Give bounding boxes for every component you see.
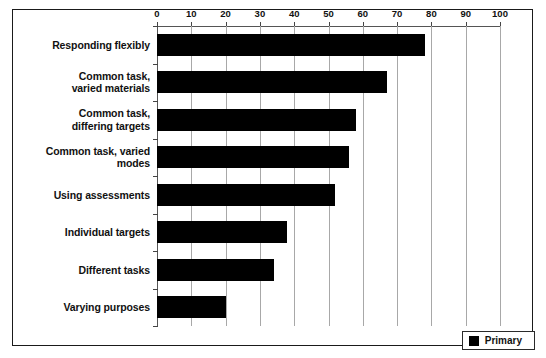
category-label: Using assessments	[18, 176, 152, 214]
bar	[157, 146, 349, 168]
legend-swatch-primary	[469, 336, 479, 346]
value-tick-label: 70	[392, 8, 403, 19]
gridline	[500, 26, 501, 326]
value-tick-label: 60	[358, 8, 369, 19]
category-label: Common task, varied materials	[18, 64, 152, 102]
bar	[157, 184, 335, 206]
bar	[157, 34, 425, 56]
bar	[157, 109, 356, 131]
category-axis-labels: Responding flexiblyCommon task, varied m…	[18, 26, 152, 326]
bar-row	[157, 101, 500, 139]
chart-figure: Responding flexiblyCommon task, varied m…	[0, 0, 546, 358]
bar-row	[157, 64, 500, 102]
category-tick	[153, 326, 158, 327]
value-tick-label: 50	[323, 8, 334, 19]
legend-label-primary: Primary	[485, 335, 522, 346]
bar-series-primary	[157, 26, 500, 326]
bar-row	[157, 289, 500, 327]
category-label: Different tasks	[18, 251, 152, 289]
value-tick-label: 0	[154, 8, 159, 19]
bar-row	[157, 26, 500, 64]
value-tick-label: 20	[220, 8, 231, 19]
bar-row	[157, 176, 500, 214]
value-tick	[500, 22, 501, 26]
value-tick-label: 100	[492, 8, 508, 19]
category-label: Varying purposes	[18, 289, 152, 327]
bar	[157, 221, 287, 243]
value-tick-label: 90	[460, 8, 471, 19]
category-label: Responding flexibly	[18, 26, 152, 64]
bar-row	[157, 139, 500, 177]
bar	[157, 71, 387, 93]
value-tick-label: 80	[426, 8, 437, 19]
category-label: Individual targets	[18, 214, 152, 252]
value-tick-label: 40	[289, 8, 300, 19]
chart-legend: Primary	[462, 331, 535, 350]
bar-row	[157, 251, 500, 289]
bar	[157, 259, 274, 281]
category-label: Common task, differing targets	[18, 101, 152, 139]
value-tick-label: 10	[186, 8, 197, 19]
plot-area: 0102030405060708090100	[157, 26, 500, 326]
bar-row	[157, 214, 500, 252]
value-tick-label: 30	[255, 8, 266, 19]
bar	[157, 296, 226, 318]
category-label: Common task, varied modes	[18, 139, 152, 177]
